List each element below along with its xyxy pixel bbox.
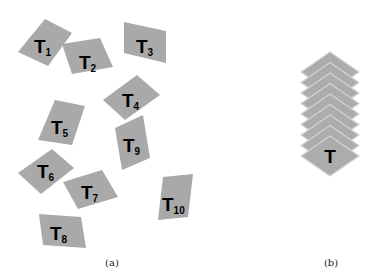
tile-t10: T10 [158, 174, 193, 220]
tile-t2: T2 [62, 38, 113, 74]
tile-t1: T1 [18, 19, 72, 66]
tile-t5: T5 [38, 100, 85, 145]
tile-t7: T7 [63, 170, 118, 209]
stack-label: T [324, 146, 336, 167]
tile-t8: T8 [39, 214, 86, 248]
tile-t4: T4 [103, 75, 160, 120]
tile-t6: T6 [18, 149, 74, 194]
panel-a-scattered-tiles: T1T2T3T4T5T6T7T8T9T10 [18, 19, 193, 248]
tile-diagram: T1T2T3T4T5T6T7T8T9T10 T (a) (b) [0, 0, 379, 280]
tile-t9: T9 [115, 115, 150, 170]
tile-t3: T3 [124, 22, 166, 63]
caption-b: (b) [324, 257, 338, 268]
caption-a: (a) [105, 257, 119, 268]
panel-b-stacked-tiles: T [301, 52, 359, 176]
